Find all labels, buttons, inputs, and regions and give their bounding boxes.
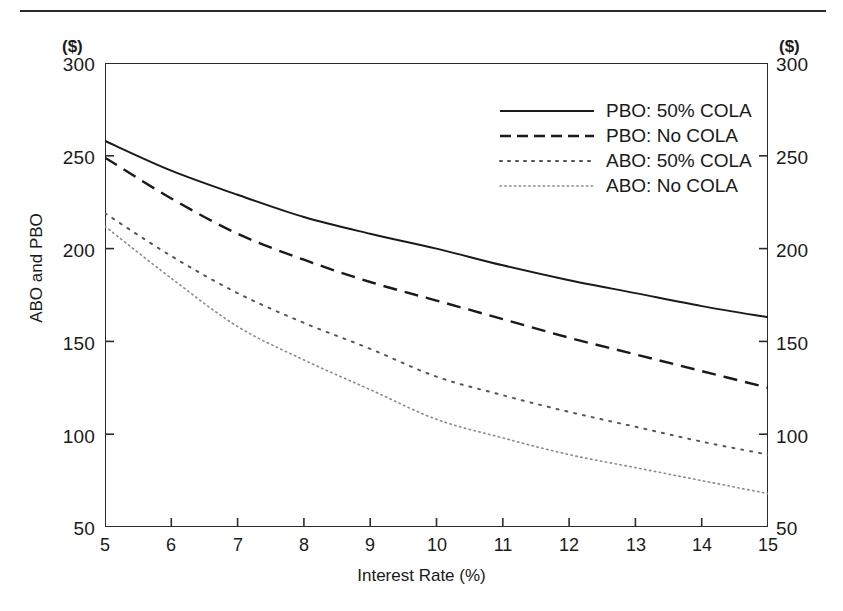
y-tick-label-right-250: 250 <box>776 148 840 167</box>
axis-ticks <box>105 156 768 527</box>
legend-item-pbo-50-cola[interactable]: PBO: 50% COLA <box>498 98 730 123</box>
legend-label-pbo-50-cola: PBO: 50% COLA <box>606 101 752 120</box>
x-tick-label-6: 6 <box>151 536 191 554</box>
series-line-3 <box>105 226 768 493</box>
figure-container: ($) ($) 300 250 200 150 100 50 300 250 2… <box>0 0 843 611</box>
x-tick-label-14: 14 <box>682 536 722 554</box>
y-tick-label-left-300: 300 <box>31 55 95 74</box>
legend-line-sample-dotted <box>498 154 596 168</box>
x-tick-label-10: 10 <box>417 536 457 554</box>
figure-top-rule <box>20 10 826 12</box>
x-tick-label-9: 9 <box>350 536 390 554</box>
y-axis-title: ABO and PBO <box>27 193 47 343</box>
x-tick-label-8: 8 <box>284 536 324 554</box>
y-tick-label-left-250: 250 <box>31 148 95 167</box>
y-tick-label-right-300: 300 <box>776 55 840 74</box>
x-tick-label-15: 15 <box>748 536 788 554</box>
y-tick-label-right-200: 200 <box>776 241 840 260</box>
y-tick-label-left-100: 100 <box>31 427 95 446</box>
x-tick-label-11: 11 <box>483 536 523 554</box>
x-tick-label-13: 13 <box>616 536 656 554</box>
legend-item-pbo-no-cola[interactable]: PBO: No COLA <box>498 123 730 148</box>
legend-label-abo-50-cola: ABO: 50% COLA <box>606 151 752 170</box>
legend-item-abo-50-cola[interactable]: ABO: 50% COLA <box>498 148 730 173</box>
legend-label-pbo-no-cola: PBO: No COLA <box>606 126 738 145</box>
x-axis-title: Interest Rate (%) <box>0 566 843 586</box>
x-tick-label-12: 12 <box>549 536 589 554</box>
legend-label-abo-no-cola: ABO: No COLA <box>606 176 738 195</box>
legend: PBO: 50% COLA PBO: No COLA ABO: 50% COLA… <box>498 98 730 198</box>
legend-item-abo-no-cola[interactable]: ABO: No COLA <box>498 173 730 198</box>
legend-line-sample-solid <box>498 104 596 118</box>
legend-line-sample-fine-dotted <box>498 179 596 193</box>
legend-line-sample-dashed <box>498 129 596 143</box>
y-axis-unit-caption-right: ($) <box>779 38 800 55</box>
y-tick-label-right-150: 150 <box>776 334 840 353</box>
y-axis-unit-caption-left: ($) <box>62 38 83 55</box>
y-tick-label-right-100: 100 <box>776 427 840 446</box>
x-tick-label-5: 5 <box>85 536 125 554</box>
x-tick-label-7: 7 <box>218 536 258 554</box>
